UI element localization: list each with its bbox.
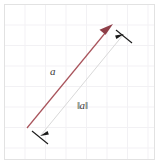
magnitude-label: ‖a‖ (77, 100, 88, 111)
vector-a-shaft (27, 32, 106, 128)
vector-a-arrowhead (100, 24, 114, 35)
magnitude-bar-right: ‖ (85, 99, 88, 111)
magnitude-arrowhead-start (40, 131, 49, 136)
vector-a-group (27, 24, 113, 128)
vector-magnitude-figure: a ‖a‖ (0, 0, 159, 164)
magnitude-dimension-group (32, 30, 132, 144)
magnitude-dimension-line (41, 35, 123, 135)
vector-diagram-canvas (0, 0, 159, 164)
vector-label-a: a (50, 66, 56, 77)
